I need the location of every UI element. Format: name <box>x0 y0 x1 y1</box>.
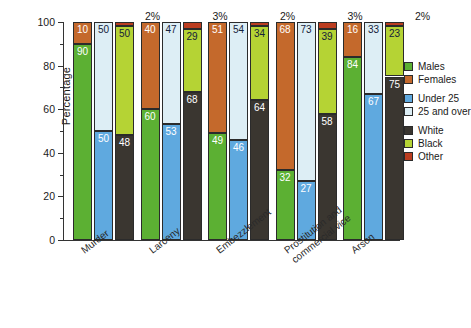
bar-segment-value: 67 <box>365 96 382 107</box>
bar-segment <box>385 22 404 26</box>
bar-segment: 50 <box>115 26 134 135</box>
y-axis-tick-label: 0 <box>29 235 55 246</box>
bar-segment: 48 <box>115 135 134 240</box>
y-axis-tick-major <box>58 22 63 23</box>
bar-segment: 10 <box>73 22 92 44</box>
y-axis-tick-minor <box>60 87 63 88</box>
y-axis-tick-major <box>58 66 63 67</box>
legend-swatch-icon <box>404 75 413 84</box>
y-axis-tick-label: 100 <box>29 17 55 28</box>
bar-segment: 47 <box>162 22 181 124</box>
other-percent-annotation: 3% <box>213 10 228 22</box>
bar-segment-value: 90 <box>74 46 91 57</box>
bar-segment-value: 53 <box>163 126 180 137</box>
bar-segment: 33 <box>364 22 383 94</box>
bar-segment: 39 <box>318 29 337 114</box>
bar-segment-value: 27 <box>298 183 315 194</box>
bar-segment: 29 <box>183 29 202 92</box>
bar-segment: 50 <box>94 22 113 131</box>
legend-item: Black <box>404 137 466 150</box>
bar-segment-value: 75 <box>386 79 403 90</box>
bar-segment-value: 49 <box>209 135 226 146</box>
y-axis-tick-major <box>58 153 63 154</box>
y-axis-tick-label: 80 <box>29 61 55 72</box>
bar-segment <box>250 22 269 26</box>
legend-swatch-icon <box>404 94 413 103</box>
legend-swatch-icon <box>404 139 413 148</box>
bar-segment-value: 29 <box>184 31 201 42</box>
bar-segment: 60 <box>141 109 160 240</box>
legend-item: Under 25 <box>404 92 466 105</box>
bar-segment: 54 <box>229 22 248 140</box>
y-axis-tick-minor <box>60 175 63 176</box>
other-percent-annotation: 3% <box>348 10 363 22</box>
bar-segment-value: 68 <box>277 24 294 35</box>
bar-segment: 73 <box>297 22 316 181</box>
other-percent-annotation: 2% <box>280 10 295 22</box>
bar-segment <box>115 22 134 26</box>
bar-segment-value: 48 <box>116 137 133 148</box>
bar-segment: 67 <box>364 94 383 240</box>
legend-swatch-icon <box>404 107 413 116</box>
bar-segment: 53 <box>162 124 181 240</box>
legend-group: Under 2525 and over <box>404 92 466 118</box>
y-axis-tick-minor <box>60 218 63 219</box>
bar-segment-value: 73 <box>298 24 315 35</box>
bar-segment-value: 58 <box>319 116 336 127</box>
bar-segment <box>318 22 337 29</box>
bar-segment-value: 84 <box>344 59 361 70</box>
bar-segment: 68 <box>183 92 202 240</box>
bar-segment-value: 46 <box>230 142 247 153</box>
bar-segment-value: 60 <box>142 111 159 122</box>
bar-segment: 49 <box>208 133 227 240</box>
legend-item-label: White <box>418 125 444 136</box>
bar-segment-value: 34 <box>251 28 268 39</box>
y-axis-line <box>63 22 64 240</box>
y-axis-tick-minor <box>60 131 63 132</box>
bar-segment-value: 64 <box>251 102 268 113</box>
bar-segment-value: 47 <box>163 24 180 35</box>
legend-item-label: 25 and over <box>418 106 471 117</box>
legend-swatch-icon <box>404 126 413 135</box>
legend-item-label: Black <box>418 138 442 149</box>
bar-segment-value: 68 <box>184 94 201 105</box>
bar-segment-value: 39 <box>319 31 336 42</box>
bar-segment-value: 54 <box>230 24 247 35</box>
bar-segment <box>183 22 202 29</box>
bar-segment-value: 50 <box>95 133 112 144</box>
y-axis-tick-label: 60 <box>29 104 55 115</box>
legend-item: Females <box>404 73 466 86</box>
legend-swatch-icon <box>404 62 413 71</box>
bar-segment: 34 <box>250 26 269 100</box>
bar-segment: 32 <box>276 170 295 240</box>
other-percent-annotation: 2% <box>415 10 430 22</box>
legend-item-label: Females <box>418 74 456 85</box>
legend-group: MalesFemales <box>404 60 466 86</box>
bar-segment: 75 <box>385 77 404 241</box>
y-axis-tick-label: 40 <box>29 148 55 159</box>
y-axis-tick-minor <box>60 44 63 45</box>
bar-segment-value: 40 <box>142 24 159 35</box>
bar-segment: 51 <box>208 22 227 133</box>
bar-segment-value: 50 <box>95 24 112 35</box>
y-axis-tick-major <box>58 109 63 110</box>
other-percent-annotation: 2% <box>145 10 160 22</box>
y-axis-tick-label: 20 <box>29 191 55 202</box>
bar-segment: 16 <box>343 22 362 57</box>
legend-group: WhiteBlackOther <box>404 124 466 163</box>
bar-segment: 23 <box>385 26 404 76</box>
bar-segment-value: 23 <box>386 28 403 39</box>
y-axis-tick-major <box>58 196 63 197</box>
bar-segment-value: 51 <box>209 24 226 35</box>
legend-swatch-icon <box>404 152 413 161</box>
bar-segment: 40 <box>141 22 160 109</box>
bar-segment-value: 16 <box>344 24 361 35</box>
bar-segment-value: 10 <box>74 24 91 35</box>
legend-item: 25 and over <box>404 105 466 118</box>
chart-legend: MalesFemalesUnder 2525 and overWhiteBlac… <box>404 60 466 169</box>
bar-segment: 50 <box>94 131 113 240</box>
bar-segment-value: 33 <box>365 24 382 35</box>
bar-segment-value: 50 <box>116 28 133 39</box>
y-axis-title: Percentage <box>60 36 72 156</box>
